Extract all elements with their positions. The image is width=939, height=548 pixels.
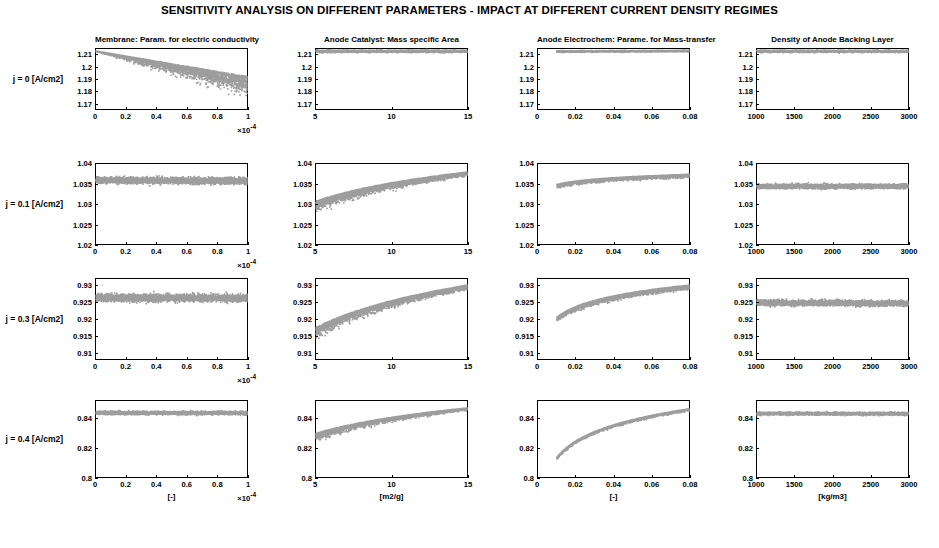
x-tick-label: 2500 bbox=[862, 480, 879, 489]
x-tick-label: 0.8 bbox=[212, 247, 223, 256]
plot-panel-r0-c2[interactable]: Anode Electrochem: Parame. for Mass-tran… bbox=[537, 48, 690, 110]
x-tick-mark bbox=[909, 107, 910, 110]
x-tick-label: 15 bbox=[464, 112, 472, 121]
plot-panel-r2-c2[interactable]: 0.910.9150.920.9250.9300.020.040.060.08 bbox=[537, 278, 690, 360]
y-tick-mark bbox=[537, 104, 540, 105]
x-tick-mark bbox=[156, 357, 157, 360]
plot-panel-r2-c1[interactable]: 0.910.9150.920.9250.9351015 bbox=[315, 278, 468, 360]
y-tick-mark bbox=[315, 163, 318, 164]
plot-panel-r3-c0[interactable]: 0.80.820.8400.20.40.60.81×10-4[-] bbox=[95, 400, 248, 478]
y-tick-mark bbox=[315, 225, 318, 226]
x-tick-label: 15 bbox=[464, 247, 472, 256]
y-tick-label: 0.925 bbox=[73, 297, 92, 306]
y-tick-label: 0.8 bbox=[523, 474, 534, 483]
plot-panel-r2-c3[interactable]: 0.910.9150.920.9250.93100015002000250030… bbox=[756, 278, 909, 360]
y-tick-mark bbox=[756, 478, 759, 479]
y-tick-mark bbox=[95, 67, 98, 68]
x-tick-label: 3000 bbox=[901, 480, 918, 489]
row-label-j-0: j = 0 [A/cm2] bbox=[0, 74, 63, 84]
scatter-series bbox=[756, 163, 909, 245]
scatter-series bbox=[537, 278, 690, 360]
x-tick-mark bbox=[909, 242, 910, 245]
x-tick-mark bbox=[690, 107, 691, 110]
y-tick-label: 0.91 bbox=[77, 349, 92, 358]
y-tick-mark bbox=[95, 91, 98, 92]
x-tick-mark bbox=[95, 242, 96, 245]
y-tick-label: 1.17 bbox=[297, 99, 312, 108]
plot-panel-r0-c1[interactable]: Anode Catalyst: Mass specific Area1.171.… bbox=[315, 48, 468, 110]
y-tick-mark bbox=[756, 353, 759, 354]
x-tick-mark bbox=[187, 357, 188, 360]
y-tick-label: 0.92 bbox=[297, 315, 312, 324]
plot-panel-r0-c3[interactable]: Density of Anode Backing Layer1.171.181.… bbox=[756, 48, 909, 110]
panel-title: Density of Anode Backing Layer bbox=[756, 35, 909, 44]
y-tick-label: 0.82 bbox=[738, 444, 753, 453]
plot-panel-r0-c0[interactable]: Membrane: Param. for electric conductivi… bbox=[95, 48, 248, 110]
x-tick-label: 2000 bbox=[824, 112, 841, 121]
x-tick-label: 0.2 bbox=[120, 362, 131, 371]
x-tick-mark bbox=[537, 475, 538, 478]
y-tick-label: 0.84 bbox=[519, 414, 534, 423]
y-tick-label: 0.915 bbox=[73, 332, 92, 341]
scatter-series bbox=[95, 278, 248, 360]
y-tick-mark bbox=[95, 418, 98, 419]
x-tick-mark bbox=[690, 357, 691, 360]
y-tick-mark bbox=[315, 245, 318, 246]
x-tick-mark bbox=[187, 242, 188, 245]
scatter-series bbox=[537, 163, 690, 245]
x-tick-label: 5 bbox=[313, 112, 317, 121]
y-tick-mark bbox=[756, 79, 759, 80]
plot-panel-r3-c2[interactable]: 0.80.820.8400.020.040.060.08[-] bbox=[537, 400, 690, 478]
y-tick-label: 0.925 bbox=[293, 297, 312, 306]
x-tick-mark bbox=[756, 107, 757, 110]
plot-panel-r1-c0[interactable]: 1.021.0251.031.0351.0400.20.40.60.81×10-… bbox=[95, 163, 248, 245]
y-tick-mark bbox=[315, 79, 318, 80]
x-tick-label: 0.4 bbox=[151, 480, 162, 489]
y-tick-mark bbox=[95, 302, 98, 303]
y-tick-label: 1.025 bbox=[734, 220, 753, 229]
scatter-series bbox=[537, 48, 690, 110]
x-tick-label: 10 bbox=[387, 247, 395, 256]
plot-panel-r3-c1[interactable]: 0.80.820.8451015[m2/g] bbox=[315, 400, 468, 478]
plot-panel-r1-c2[interactable]: 1.021.0251.031.0351.0400.020.040.060.08 bbox=[537, 163, 690, 245]
y-tick-label: 1.035 bbox=[515, 179, 534, 188]
plot-panel-r3-c3[interactable]: 0.80.820.8410001500200025003000[kg/m3] bbox=[756, 400, 909, 478]
plot-panel-r1-c1[interactable]: 1.021.0251.031.0351.0451015 bbox=[315, 163, 468, 245]
y-tick-label: 1.04 bbox=[297, 159, 312, 168]
x-tick-mark bbox=[126, 357, 127, 360]
x-tick-label: 0.04 bbox=[606, 362, 621, 371]
x-tick-mark bbox=[833, 475, 834, 478]
scatter-series bbox=[315, 278, 468, 360]
y-tick-mark bbox=[537, 319, 540, 320]
x-axis-multiplier-exponent: -4 bbox=[250, 123, 256, 130]
y-tick-label: 1.025 bbox=[293, 220, 312, 229]
x-tick-label: 5 bbox=[313, 480, 317, 489]
x-tick-mark bbox=[794, 107, 795, 110]
x-tick-label: 3000 bbox=[901, 247, 918, 256]
x-tick-mark bbox=[315, 475, 316, 478]
y-tick-mark bbox=[95, 336, 98, 337]
x-tick-mark bbox=[652, 107, 653, 110]
row-label-j-1: j = 0.1 [A/cm2] bbox=[0, 199, 63, 209]
x-tick-mark bbox=[871, 475, 872, 478]
x-tick-mark bbox=[217, 357, 218, 360]
y-tick-mark bbox=[537, 448, 540, 449]
y-tick-label: 1.2 bbox=[523, 62, 534, 71]
y-tick-label: 1.02 bbox=[519, 241, 534, 250]
x-tick-label: 0.6 bbox=[182, 112, 193, 121]
x-tick-label: 0 bbox=[535, 112, 539, 121]
x-tick-label: 2500 bbox=[862, 247, 879, 256]
x-tick-mark bbox=[126, 242, 127, 245]
y-tick-mark bbox=[95, 478, 98, 479]
x-tick-label: 2500 bbox=[862, 362, 879, 371]
x-tick-mark bbox=[468, 242, 469, 245]
x-tick-label: 5 bbox=[313, 362, 317, 371]
x-tick-mark bbox=[468, 475, 469, 478]
plot-panel-r2-c0[interactable]: 0.910.9150.920.9250.9300.20.40.60.81×10-… bbox=[95, 278, 248, 360]
y-tick-label: 1.035 bbox=[73, 179, 92, 188]
y-tick-mark bbox=[756, 448, 759, 449]
plot-panel-r1-c3[interactable]: 1.021.0251.031.0351.04100015002000250030… bbox=[756, 163, 909, 245]
x-tick-label: 5 bbox=[313, 247, 317, 256]
y-tick-label: 0.93 bbox=[738, 280, 753, 289]
x-tick-mark bbox=[392, 357, 393, 360]
